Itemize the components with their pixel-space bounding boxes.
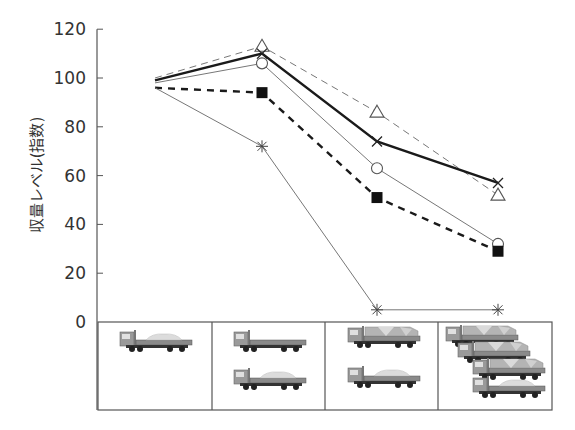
- y-tick-label: 100: [54, 68, 86, 88]
- truck-icon: [348, 326, 420, 348]
- y-axis-label: 収量レベル(指数): [28, 117, 46, 234]
- truck-icon: [120, 330, 192, 352]
- asterisk-marker-icon: [371, 304, 383, 316]
- asterisk-thin-solid-line: [155, 88, 498, 310]
- truck-icon: [234, 330, 306, 352]
- asterisk-marker-icon: [256, 140, 268, 152]
- yield-level-chart: 020406080100120 収量レベル(指数): [0, 0, 575, 430]
- circle-thin-solid-line: [155, 63, 498, 244]
- y-axis: 020406080100120: [54, 19, 103, 410]
- square-filled-marker-icon: [493, 246, 504, 257]
- y-tick-label: 80: [64, 117, 86, 137]
- asterisk-marker-icon: [492, 304, 504, 316]
- x-category-panels: [98, 322, 552, 410]
- triangle-open-marker-icon: [491, 188, 505, 200]
- triangle-open-marker-icon: [370, 105, 384, 117]
- truck-icon: [473, 358, 545, 380]
- x-thick-solid-line: [155, 54, 498, 183]
- y-tick-label: 0: [75, 312, 86, 332]
- y-tick-label: 120: [54, 19, 86, 39]
- square-filled-marker-icon: [372, 192, 383, 203]
- y-tick-label: 40: [64, 214, 86, 234]
- y-tick-label: 60: [64, 166, 86, 186]
- square-filled-marker-icon: [257, 87, 268, 98]
- square-thick-dashed-line: [155, 88, 498, 251]
- truck-icon: [234, 368, 306, 390]
- y-tick-label: 20: [64, 263, 86, 283]
- circle-open-marker-icon: [372, 163, 383, 174]
- truck-icon: [348, 366, 420, 388]
- data-series: [155, 39, 505, 316]
- circle-open-marker-icon: [257, 58, 268, 69]
